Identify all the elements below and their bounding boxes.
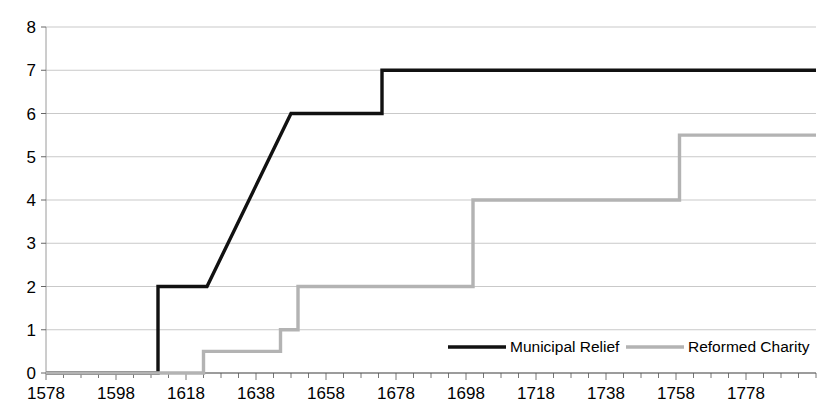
x-axis-tick-label: 1598	[84, 385, 148, 402]
gridlines	[46, 27, 816, 373]
x-axis-tick-label: 1698	[434, 385, 498, 402]
x-axis-tick-label: 1718	[504, 385, 568, 402]
legend-label-2: Reformed Charity	[688, 339, 809, 355]
x-axis-tick-label: 1678	[364, 385, 428, 402]
y-axis-tick-label: 3	[8, 235, 36, 252]
x-axis-tick-label: 1578	[14, 385, 78, 402]
x-axis-tick-label: 1618	[154, 385, 218, 402]
y-axis-tick-label: 6	[8, 106, 36, 123]
chart-container: 012345678 157815981618163816581678169817…	[0, 0, 840, 402]
y-axis-tick-label: 5	[8, 149, 36, 166]
x-axis-tick-label: 1778	[714, 385, 778, 402]
y-axis-tick-label: 8	[8, 19, 36, 36]
x-axis-tick-label: 1758	[644, 385, 708, 402]
x-axis-tick-label: 1738	[574, 385, 638, 402]
y-axis-tick-label: 7	[8, 62, 36, 79]
y-axis-tick-label: 0	[8, 365, 36, 382]
legend-label-1: Municipal Relief	[510, 339, 619, 355]
y-axis-tick-label: 2	[8, 279, 36, 296]
series-line-1	[46, 70, 816, 373]
x-axis-tick-label: 1658	[294, 385, 358, 402]
y-axis-tick-label: 4	[8, 192, 36, 209]
data-series-group	[46, 70, 816, 373]
x-axis-tick-label: 1638	[224, 385, 288, 402]
y-axis-tick-label: 1	[8, 322, 36, 339]
